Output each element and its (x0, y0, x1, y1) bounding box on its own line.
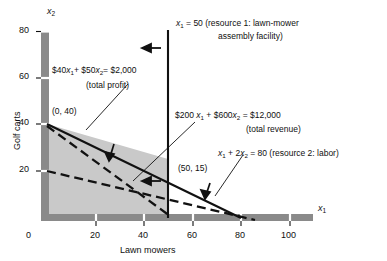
x-tick-80: 80 (235, 230, 245, 240)
x-tick-20: 20 (90, 230, 100, 240)
vertex-label-0-40: (0, 40) (52, 106, 77, 116)
leader-labor (215, 155, 243, 196)
x-tick-60: 60 (187, 230, 197, 240)
y-tick-stubs (36, 32, 41, 172)
resource-1-label: x1 = 50 (resource 1: lawn-mower (176, 18, 299, 29)
total-revenue-label: $200 x1 + $600x2 = $12,000 (175, 110, 281, 121)
resource-1-label-line2: assembly facility) (218, 31, 283, 41)
y-axis-symbol: x2 (47, 6, 55, 17)
linear-programming-chart: x2 x1 80 60 40 20 0 20 40 60 80 100 Golf… (0, 0, 387, 261)
total-revenue-caption: (total revenue) (246, 124, 301, 134)
leader-profit (86, 84, 128, 130)
x-axis-title: Lawn mowers (120, 245, 176, 255)
x-tick-stubs (96, 221, 290, 226)
arrow-revenue-direction (201, 183, 210, 199)
plot-canvas (0, 0, 387, 261)
vertex-label-50-15: (50, 15) (178, 163, 207, 173)
y-tick-20: 20 (19, 164, 29, 174)
y-tick-60: 60 (19, 71, 29, 81)
x-tick-40: 40 (138, 230, 148, 240)
x-tick-100: 100 (281, 230, 296, 240)
y-tick-0: 0 (26, 230, 31, 240)
total-profit-label: $40x1+ $50x2= $2,000 (52, 65, 136, 76)
arrow-left-upper (142, 44, 161, 52)
resource-2-label: x1 + 2x2 = 80 (resource 2: labor) (218, 148, 339, 159)
y-tick-80: 80 (19, 25, 29, 35)
x-axis-symbol: x1 (318, 203, 326, 214)
x-axis-bar (41, 214, 313, 221)
y-axis-title: Golf carts (12, 111, 22, 150)
total-profit-caption: (total profit) (86, 80, 129, 90)
